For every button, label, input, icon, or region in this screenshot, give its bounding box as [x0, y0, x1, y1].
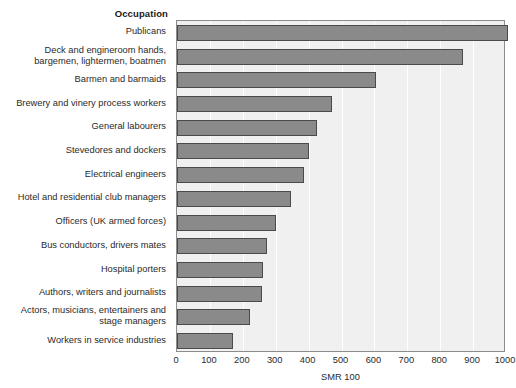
bar[interactable]: [177, 309, 250, 325]
x-tick-label: 700: [399, 355, 415, 365]
bar[interactable]: [177, 143, 309, 159]
bar-row[interactable]: [177, 143, 506, 159]
category-axis-title: Occupation: [0, 8, 168, 19]
bar-row[interactable]: [177, 286, 506, 302]
category-label: Officers (UK armed forces): [0, 216, 166, 227]
x-tick-label: 300: [267, 355, 283, 365]
x-axis-tick-labels: 01002003004005006007008009001000: [176, 355, 505, 369]
x-tick-label: 400: [300, 355, 316, 365]
category-label: Publicans: [0, 26, 166, 37]
category-labels: PublicansDeck and engineroom hands,barge…: [0, 20, 172, 352]
x-tick-label: 800: [431, 355, 447, 365]
category-label: Brewery and vinery process workers: [0, 98, 166, 109]
category-label: Authors, writers and journalists: [0, 287, 166, 298]
bar[interactable]: [177, 238, 267, 254]
bar[interactable]: [177, 286, 262, 302]
bar[interactable]: [177, 191, 291, 207]
bar[interactable]: [177, 25, 508, 41]
category-label: Actors, musicians, entertainers andstage…: [0, 305, 166, 327]
bar[interactable]: [177, 262, 263, 278]
x-axis-title: SMR 100: [176, 372, 505, 382]
category-label: Electrical engineers: [0, 169, 166, 180]
x-tick-label: 100: [201, 355, 217, 365]
plot-area: [176, 20, 505, 352]
bar-row[interactable]: [177, 49, 506, 65]
x-tick-label: 500: [333, 355, 349, 365]
x-tick-label: 1000: [495, 355, 516, 365]
bar[interactable]: [177, 120, 317, 136]
bar-row[interactable]: [177, 72, 506, 88]
bar[interactable]: [177, 167, 304, 183]
bar-row[interactable]: [177, 262, 506, 278]
bar-row[interactable]: [177, 333, 506, 349]
bar-row[interactable]: [177, 120, 506, 136]
bar-row[interactable]: [177, 191, 506, 207]
bar-row[interactable]: [177, 25, 506, 41]
category-label: Hotel and residential club managers: [0, 192, 166, 203]
bar-chart-figure: Occupation PublicansDeck and engineroom …: [0, 0, 516, 388]
bar-row[interactable]: [177, 215, 506, 231]
bar[interactable]: [177, 215, 276, 231]
x-tick-label: 900: [464, 355, 480, 365]
gridline: [506, 21, 507, 351]
category-label: Workers in service industries: [0, 335, 166, 346]
bar[interactable]: [177, 96, 332, 112]
bar-row[interactable]: [177, 167, 506, 183]
bar-row[interactable]: [177, 238, 506, 254]
x-tick-label: 0: [173, 355, 178, 365]
bar[interactable]: [177, 72, 376, 88]
x-tick-label: 200: [234, 355, 250, 365]
category-label: Bus conductors, drivers mates: [0, 240, 166, 251]
bar-row[interactable]: [177, 309, 506, 325]
category-label: Deck and engineroom hands,bargemen, ligh…: [0, 45, 166, 67]
category-label: Barmen and barmaids: [0, 74, 166, 85]
bar[interactable]: [177, 49, 463, 65]
category-label: General labourers: [0, 121, 166, 132]
bar[interactable]: [177, 333, 233, 349]
x-tick-label: 600: [366, 355, 382, 365]
bars-layer: [177, 21, 504, 351]
category-label: Hospital porters: [0, 264, 166, 275]
bar-row[interactable]: [177, 96, 506, 112]
category-label: Stevedores and dockers: [0, 145, 166, 156]
